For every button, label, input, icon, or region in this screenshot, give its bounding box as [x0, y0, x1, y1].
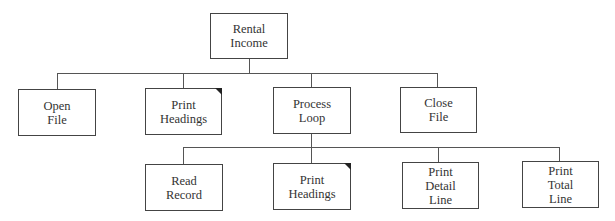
connector-read-record — [183, 147, 184, 164]
connector-print-total-line — [559, 147, 560, 161]
connector-process-loop — [311, 73, 312, 87]
node-label: Print Detail Line — [425, 165, 456, 207]
connector-print-headings — [183, 73, 184, 88]
node-process-loop: Process Loop — [273, 87, 351, 134]
connector-process-loop-stem — [311, 133, 312, 164]
node-label: Print Total Line — [548, 164, 574, 206]
node-label: Close File — [424, 96, 452, 124]
connector-root-stem — [249, 58, 250, 74]
node-label: Rental Income — [230, 22, 267, 50]
node-print-headings-2: Print Headings — [273, 163, 351, 210]
node-open-file: Open File — [18, 89, 96, 136]
node-label: Process Loop — [293, 97, 331, 125]
node-label: Read Record — [166, 174, 202, 202]
predefined-module-marker-icon — [215, 88, 222, 95]
connector-close-file — [437, 73, 438, 87]
node-label: Open File — [43, 99, 70, 127]
connector-level2-bus — [183, 147, 560, 148]
node-print-detail-line: Print Detail Line — [402, 162, 479, 209]
node-close-file: Close File — [400, 87, 477, 133]
node-print-headings: Print Headings — [145, 88, 222, 135]
node-rental-income: Rental Income — [210, 13, 288, 59]
node-label: Print Headings — [160, 98, 207, 126]
connector-open-file — [57, 73, 58, 89]
connector-level1-bus — [57, 73, 438, 74]
predefined-module-marker-icon — [344, 163, 351, 170]
node-label: Print Headings — [288, 173, 335, 201]
node-read-record: Read Record — [145, 164, 223, 211]
connector-print-detail-line — [438, 147, 439, 162]
node-print-total-line: Print Total Line — [522, 161, 599, 208]
